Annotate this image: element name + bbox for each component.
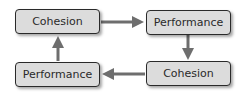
node-performance-top: Performance: [146, 10, 231, 35]
node-performance-bottom: Performance: [15, 62, 100, 87]
node-cohesion-bottom: Cohesion: [146, 61, 231, 86]
cycle-diagram: Cohesion Performance Cohesion Performanc…: [0, 0, 243, 95]
node-cohesion-top: Cohesion: [15, 9, 100, 34]
